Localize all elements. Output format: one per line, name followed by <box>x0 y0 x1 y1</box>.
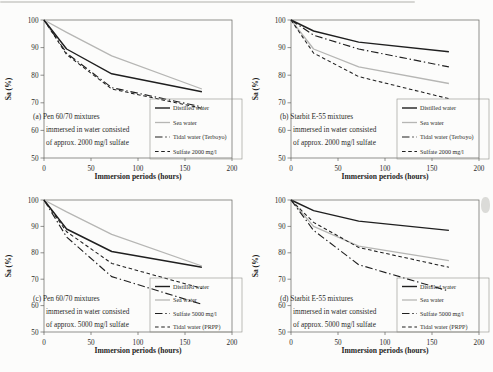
panel-caption-line: immersed in water consisted <box>293 123 376 136</box>
panel-caption-line: (b) Starbit E-55 mixtures <box>280 110 376 123</box>
y-tick-label: 70 <box>278 276 286 284</box>
legend-label: Sulfate 5000 mg/l <box>420 311 464 317</box>
panel-caption: (d) Starbit E-55 mixtures immersed in wa… <box>280 292 376 331</box>
legend-label: Sulfate 2000 mg/l <box>420 149 464 155</box>
legend: Distilled waterSea waterSulfate 5000 mg/… <box>397 278 489 332</box>
y-tick-label: 100 <box>275 197 286 205</box>
legend-label: Sea water <box>173 120 197 126</box>
panel-caption-line: of approx. 2000 mg/l sulfate <box>46 136 129 149</box>
legend-label: Distilled water <box>173 284 209 290</box>
legend-label: Tidal water (Terboyo) <box>420 134 474 141</box>
y-tick-label: 70 <box>31 99 39 107</box>
x-axis-title: Immersion periods (hours) <box>44 346 232 355</box>
chart-panel-d: 5060708090100050100150200Distilled water… <box>247 186 493 372</box>
legend-label: Tidal water (Terboyo) <box>173 134 227 141</box>
y-tick-label: 90 <box>31 223 39 231</box>
y-tick-label: 90 <box>278 223 286 231</box>
y-tick-label: 80 <box>278 72 286 80</box>
y-tick-label: 90 <box>278 44 286 52</box>
legend-label: Tidal water (PRPP) <box>420 324 468 331</box>
panel-caption-line: of approx. 2000 mg/l sulfate <box>293 136 376 149</box>
panel-caption-line: (d) Starbit E-55 mixtures <box>280 292 376 305</box>
legend-label: Distilled water <box>173 105 209 111</box>
panel-caption-line: of approx. 5000 mg/l sulfate <box>293 318 376 331</box>
chart-panel-a: 5060708090100050100150200Distilled water… <box>0 0 246 186</box>
chart-a-plot: 5060708090100050100150200Distilled water… <box>0 0 246 186</box>
legend-label: Distilled water <box>420 284 456 290</box>
series-line-sea-water <box>291 20 449 84</box>
series-line-sulfate-5000-mg-l <box>291 200 449 291</box>
legend: Distilled waterSea waterTidal water (Ter… <box>150 99 242 159</box>
legend-label: Sulfate 2000 mg/l <box>173 149 217 155</box>
y-axis-title: Sa (%) <box>4 246 14 286</box>
y-tick-label: 80 <box>31 72 39 80</box>
series-line-distilled-water <box>44 20 202 92</box>
y-tick-label: 90 <box>31 44 39 52</box>
legend: Distilled waterSea waterTidal water (Ter… <box>397 99 489 159</box>
chart-d-plot: 5060708090100050100150200Distilled water… <box>247 186 493 372</box>
y-tick-label: 70 <box>278 99 286 107</box>
y-tick-label: 80 <box>31 249 39 257</box>
y-tick-label: 70 <box>31 276 39 284</box>
y-tick-label: 50 <box>278 155 286 163</box>
panel-caption-line: of approx. 5000 mg/l sulfate <box>46 318 129 331</box>
chart-c-plot: 5060708090100050100150200Distilled water… <box>0 186 246 372</box>
legend-label: Sea water <box>173 297 197 303</box>
y-tick-label: 100 <box>275 17 286 25</box>
legend-label: Sulfate 5000 mg/l <box>173 311 217 317</box>
series-line-distilled-water <box>291 20 449 52</box>
y-axis-title: Sa (%) <box>4 69 14 109</box>
scanned-figure-canvas: 5060708090100050100150200Distilled water… <box>0 0 493 372</box>
y-tick-label: 50 <box>31 155 39 163</box>
x-axis-title: Immersion periods (hours) <box>291 346 479 355</box>
panel-caption-line: immersed in water consisted <box>46 305 129 318</box>
x-axis-title: Immersion periods (hours) <box>291 172 479 181</box>
panel-caption-line: (c) Pen 60/70 mixtures <box>33 292 129 305</box>
legend: Distilled waterSea waterSulfate 5000 mg/… <box>150 278 242 332</box>
series-line-distilled-water <box>291 200 449 230</box>
y-tick-label: 100 <box>28 197 39 205</box>
y-axis-title: Sa (%) <box>251 69 261 109</box>
y-tick-label: 100 <box>28 17 39 25</box>
series-line-tidal-water-prpp <box>44 200 202 288</box>
series-line-sea-water <box>291 200 449 261</box>
panel-caption: (a) Pen 60/70 mixtures immersed in water… <box>33 110 129 149</box>
panel-caption: (c) Pen 60/70 mixtures immersed in water… <box>33 292 129 331</box>
y-axis-title: Sa (%) <box>251 246 261 286</box>
chart-panel-b: 5060708090100050100150200Distilled water… <box>247 0 493 186</box>
panel-caption-line: immersed in water consisted <box>46 123 129 136</box>
legend-label: Tidal water (PRPP) <box>173 324 221 331</box>
legend-label: Sea water <box>420 297 444 303</box>
panel-caption-line: immersed in water consisted <box>293 305 376 318</box>
chart-b-plot: 5060708090100050100150200Distilled water… <box>247 0 493 186</box>
y-tick-label: 80 <box>278 249 286 257</box>
legend-label: Sea water <box>420 120 444 126</box>
chart-panel-c: 5060708090100050100150200Distilled water… <box>0 186 246 372</box>
panel-caption: (b) Starbit E-55 mixtures immersed in wa… <box>280 110 376 149</box>
series-line-sea-water <box>44 20 202 89</box>
panel-caption-line: (a) Pen 60/70 mixtures <box>33 110 129 123</box>
x-axis-title: Immersion periods (hours) <box>44 172 232 181</box>
legend-label: Distilled water <box>420 105 456 111</box>
